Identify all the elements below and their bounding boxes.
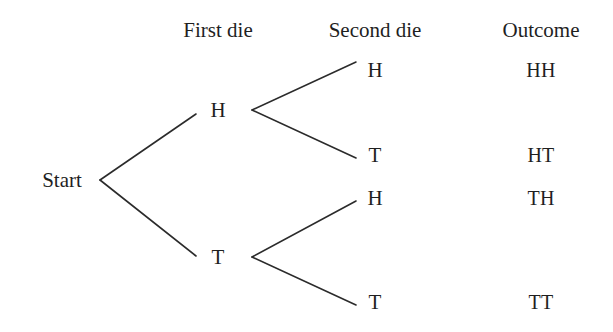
tree-edges-layer [0, 0, 613, 332]
column-header-first-die: First die [183, 20, 252, 41]
tree-node-second-die-heads-tails: T [369, 145, 382, 166]
outcome-hh: HH [526, 60, 555, 80]
tree-node-first-die-heads: H [210, 100, 225, 121]
edge-start-to-h [100, 114, 196, 180]
outcome-th: TH [527, 188, 554, 208]
tree-node-first-die-tails: T [212, 247, 225, 268]
column-header-outcome: Outcome [503, 20, 580, 41]
edge-start-to-t [100, 180, 196, 256]
edge-t-to-t [252, 257, 356, 305]
edge-t-to-h [252, 201, 356, 257]
outcome-ht: HT [527, 145, 554, 165]
tree-node-start: Start [42, 170, 82, 191]
edge-h-to-h [252, 62, 356, 110]
outcome-tt: TT [529, 292, 554, 312]
column-header-second-die: Second die [329, 20, 422, 41]
edge-h-to-t [252, 110, 356, 158]
tree-diagram-canvas: First die Second die Outcome Start H T H… [0, 0, 613, 332]
tree-node-second-die-tails-tails: T [369, 292, 382, 313]
tree-node-second-die-heads-heads: H [367, 60, 382, 81]
tree-node-second-die-tails-heads: H [367, 188, 382, 209]
